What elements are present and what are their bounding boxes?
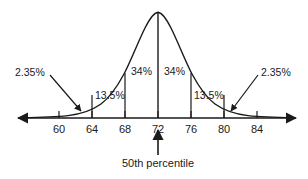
axis-tick-label-68: 68	[110, 124, 140, 135]
left-tail-leader	[50, 75, 81, 111]
region-label-left-inner: 34%	[131, 66, 152, 77]
tail-leader-arrows	[50, 75, 258, 111]
axis-tick-label-76: 76	[176, 124, 206, 135]
distribution-chart-canvas	[0, 0, 308, 179]
region-label-right-inner: 34%	[164, 66, 185, 77]
axis-tick-label-72: 72	[143, 124, 173, 135]
region-label-right-tail: 2.35%	[261, 67, 291, 78]
axis-tick-label-84: 84	[242, 124, 272, 135]
percentile-caption: 50th percentile	[98, 158, 218, 169]
region-label-left-tail: 2.35%	[15, 67, 45, 78]
axis-tick-label-64: 64	[77, 124, 107, 135]
axis-tick-label-80: 80	[209, 124, 239, 135]
region-label-left-mid: 13.5%	[95, 90, 125, 101]
axis-tick-label-60: 60	[44, 124, 74, 135]
region-label-right-mid: 13.5%	[194, 90, 224, 101]
right-tail-leader	[231, 75, 258, 111]
normal-distribution-figure: 60 64 68 72 76 80 84 2.35% 13.5% 34% 34%…	[0, 0, 308, 179]
region-divider-lines	[92, 12, 224, 118]
